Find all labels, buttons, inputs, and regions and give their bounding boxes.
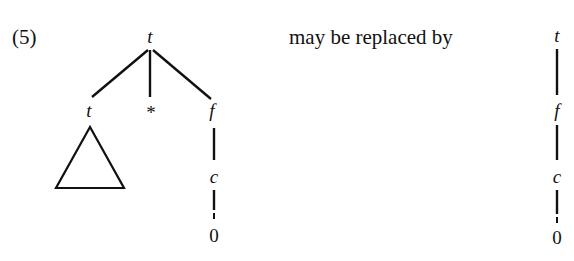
left-root-node: t bbox=[147, 27, 152, 46]
edge-root-to-f bbox=[153, 50, 211, 99]
right-c-node: c bbox=[553, 167, 561, 186]
right-t-node: t bbox=[554, 26, 559, 45]
left-zero-node: 0 bbox=[209, 226, 219, 245]
left-child-t-node: t bbox=[86, 101, 91, 120]
edge-root-to-t bbox=[92, 50, 148, 97]
right-zero-node: 0 bbox=[552, 228, 562, 247]
left-child-f-node: f bbox=[209, 101, 214, 120]
right-f-node: f bbox=[554, 101, 559, 120]
tree-edges bbox=[0, 0, 574, 261]
left-child-star-node: * bbox=[146, 103, 156, 122]
left-c-node: c bbox=[210, 167, 218, 186]
subtree-triangle-icon bbox=[56, 127, 124, 188]
